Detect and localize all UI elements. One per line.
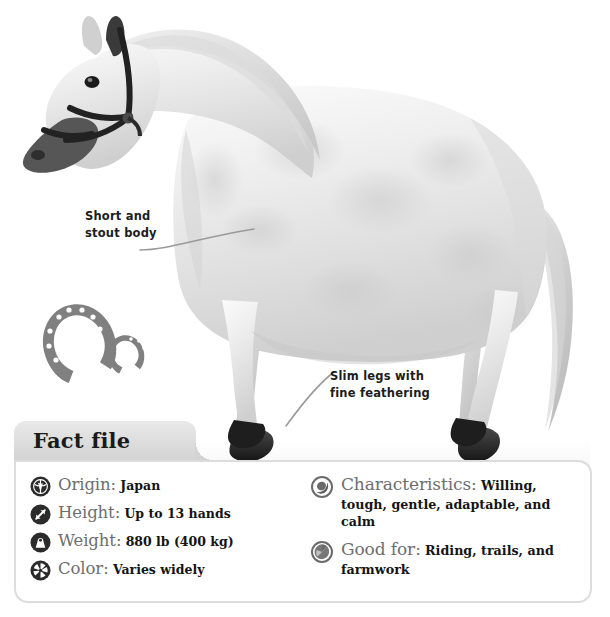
fact-text-color: Color: Varies widely xyxy=(58,558,204,579)
page-root: Short and stout body Slim legs with fine… xyxy=(0,0,610,617)
fact-text-weight: Weight: 880 lb (400 kg) xyxy=(58,530,234,551)
fact-column-right: Characteristics: Willing, tough, gentle,… xyxy=(307,474,582,593)
height-arrows-icon xyxy=(30,504,51,525)
horseshoe-pair-icon xyxy=(36,298,156,383)
fact-label-origin: Origin: xyxy=(58,475,116,494)
fact-value-origin: Japan xyxy=(120,478,160,493)
fact-label-color: Color: xyxy=(58,559,109,578)
fact-text-good-for: Good for: Riding, trails, and farmwork xyxy=(341,539,582,578)
annotation-short-stout-body: Short and stout body xyxy=(85,208,157,241)
fact-text-height: Height: Up to 13 hands xyxy=(58,502,231,523)
fact-label-good-for: Good for: xyxy=(341,539,421,559)
fact-value-weight: 880 lb (400 kg) xyxy=(126,534,234,549)
fact-row-good-for: Good for: Riding, trails, and farmwork xyxy=(311,539,582,578)
fact-column-left: Origin: Japan Height: Up to 13 hands xyxy=(24,474,307,593)
globe-icon xyxy=(30,476,51,497)
fact-row-height: Height: Up to 13 hands xyxy=(30,502,307,525)
fact-row-weight: Weight: 880 lb (400 kg) xyxy=(30,530,307,553)
fact-text-origin: Origin: Japan xyxy=(58,474,160,495)
good-for-icon xyxy=(311,541,333,563)
fact-file-title: Fact file xyxy=(33,428,130,453)
weight-icon xyxy=(30,532,51,553)
fact-row-color: Color: Varies widely xyxy=(30,558,307,581)
fact-file-tab: Fact file xyxy=(14,421,196,463)
fact-file-panel: Fact file Origin: Japan xyxy=(14,421,592,603)
fact-file-columns: Origin: Japan Height: Up to 13 hands xyxy=(14,460,592,603)
fact-value-color: Varies widely xyxy=(113,562,205,577)
characteristics-icon xyxy=(311,476,333,498)
eye xyxy=(85,76,100,88)
fact-label-height: Height: xyxy=(58,503,120,522)
fact-value-height: Up to 13 hands xyxy=(124,506,230,521)
annotation-slim-legs: Slim legs with fine feathering xyxy=(330,368,430,401)
fact-row-origin: Origin: Japan xyxy=(30,474,307,497)
color-wheel-icon xyxy=(30,560,51,581)
fact-label-weight: Weight: xyxy=(58,531,121,550)
fact-row-characteristics: Characteristics: Willing, tough, gentle,… xyxy=(311,474,582,530)
fact-label-characteristics: Characteristics: xyxy=(341,474,477,494)
fact-text-characteristics: Characteristics: Willing, tough, gentle,… xyxy=(341,474,582,530)
